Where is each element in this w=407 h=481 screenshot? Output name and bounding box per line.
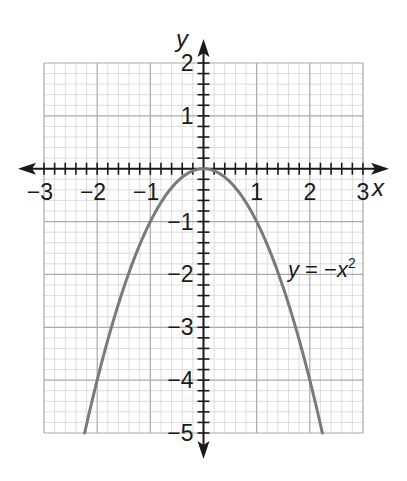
y-tick-label: −2 (167, 261, 193, 287)
y-tick-label: 2 (181, 50, 194, 76)
y-tick-label: −4 (167, 367, 193, 393)
x-tick-label: −3 (27, 179, 53, 205)
equation-annotation: y = −x2 (286, 255, 356, 282)
equation-equals-minus: = − (299, 257, 337, 282)
axes (18, 39, 389, 459)
y-tick-label: −1 (167, 209, 193, 235)
y-tick-label: 1 (181, 103, 194, 129)
equation-exponent: 2 (348, 255, 356, 271)
x-axis-label: x (371, 174, 385, 201)
x-tick-label: 1 (250, 179, 263, 205)
x-tick-label: 2 (303, 179, 316, 205)
x-tick-label: −2 (80, 179, 106, 205)
parabola-chart: −3−2−112321−1−2−3−4−5 x y y = −x2 (0, 0, 407, 481)
y-tick-label: −5 (167, 420, 193, 446)
y-tick-label: −3 (167, 314, 193, 340)
y-axis-label: y (174, 25, 190, 52)
tick-labels: −3−2−112321−1−2−3−4−5 (27, 50, 370, 446)
x-tick-label: −1 (133, 179, 159, 205)
x-tick-label: 3 (357, 179, 370, 205)
